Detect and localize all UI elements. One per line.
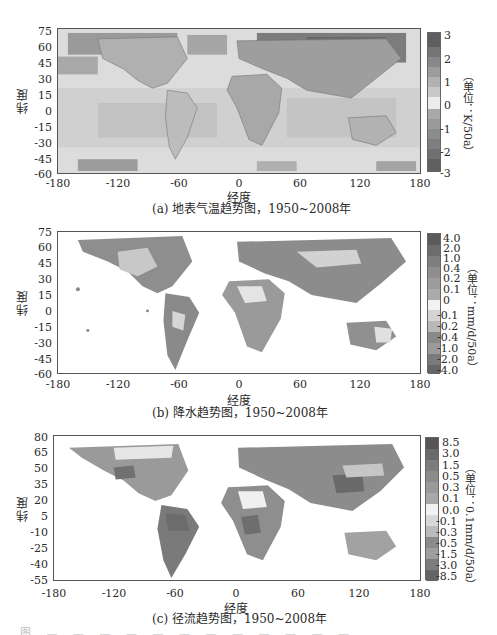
x-tick: -180 <box>36 588 72 600</box>
y-tick: -25 <box>20 543 48 554</box>
y-tick: -10 <box>20 527 48 538</box>
y-tick: 5 <box>20 511 48 522</box>
y-tick: 50 <box>20 463 48 474</box>
x-tick: 60 <box>280 588 316 600</box>
colorbar-label: -8.5 <box>436 571 457 582</box>
x-tick: -120 <box>96 588 132 600</box>
panel-c: 纬度 80 65 50 35 20 5 -10 -25 -40 -55 -180… <box>0 0 497 635</box>
y-tick: -40 <box>20 559 48 570</box>
colorbar-label: 3.0 <box>442 448 460 459</box>
colorbar-label: 0.1 <box>442 493 460 504</box>
runoff-map-graphic <box>54 436 420 580</box>
x-tick: 120 <box>341 588 377 600</box>
figure-caption-cropped: 图 — — — — — — — — — — — — <box>20 624 490 635</box>
y-tick: -55 <box>20 575 48 586</box>
y-tick: 20 <box>20 495 48 506</box>
x-tick: -60 <box>157 588 193 600</box>
x-tick: 180 <box>402 588 438 600</box>
map-runoff-trend <box>53 435 421 581</box>
colorbar-unit: （单位：0.1mm/d/50a） <box>461 462 477 590</box>
y-tick: 35 <box>20 479 48 490</box>
y-tick: 80 <box>20 432 48 443</box>
y-tick: 65 <box>20 447 48 458</box>
